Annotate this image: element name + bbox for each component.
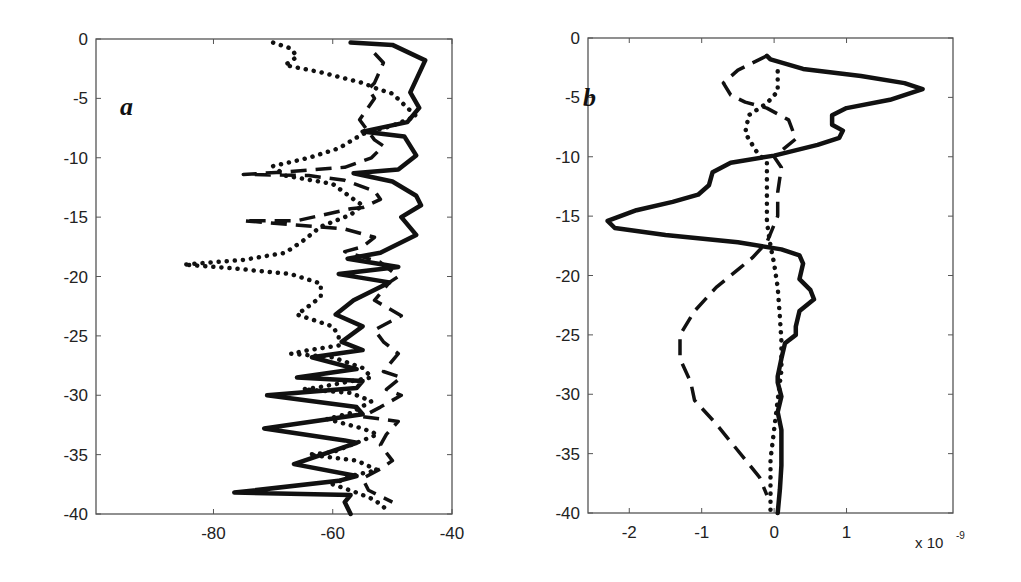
figure: 0-5-10-15-20-25-30-35-40-80-60-40a 0-5-1…	[0, 0, 1021, 582]
x-multiplier-label: x 10	[915, 534, 943, 551]
y-tick-label: -25	[63, 327, 88, 346]
y-tick-label: -15	[63, 208, 88, 227]
panel-label: a	[120, 92, 133, 121]
x-tick-label: -60	[320, 524, 345, 543]
x-tick-label: -40	[440, 524, 465, 543]
y-tick-label: 0	[571, 29, 580, 48]
x-tick-label: -1	[694, 523, 709, 542]
y-tick-label: -5	[565, 88, 580, 107]
x-tick-label: -80	[201, 524, 226, 543]
y-tick-label: -35	[63, 446, 88, 465]
y-tick-label: -25	[555, 326, 580, 345]
y-tick-label: -15	[555, 207, 580, 226]
panel-label: b	[583, 83, 596, 112]
panel-b-chart: 0-5-10-15-20-25-30-35-40-2-101bx 10-9	[555, 29, 965, 551]
x-tick-label: 0	[769, 523, 778, 542]
y-tick-label: 0	[79, 30, 88, 49]
y-tick-label: -40	[555, 504, 580, 523]
y-tick-label: -40	[63, 505, 88, 524]
x-tick-label: -2	[622, 523, 637, 542]
y-tick-label: -20	[63, 268, 88, 287]
axes-box	[96, 39, 452, 514]
x-multiplier-exponent: -9	[956, 530, 965, 541]
y-tick-label: -10	[555, 148, 580, 167]
x-tick-label: 1	[842, 523, 851, 542]
y-tick-label: -20	[555, 267, 580, 286]
panel-a-chart: 0-5-10-15-20-25-30-35-40-80-60-40a	[63, 30, 464, 543]
y-tick-label: -5	[73, 89, 88, 108]
y-tick-label: -30	[555, 385, 580, 404]
y-tick-label: -30	[63, 386, 88, 405]
y-tick-label: -10	[63, 149, 88, 168]
y-tick-label: -35	[555, 445, 580, 464]
